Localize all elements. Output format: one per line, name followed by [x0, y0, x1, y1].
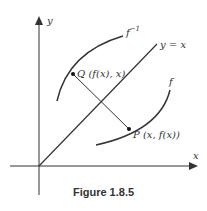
- identity-line-label: y = x: [159, 39, 186, 50]
- inverse-curve-label: f−1: [125, 25, 140, 38]
- function-curve-label: f: [168, 76, 175, 87]
- figure-caption: Figure 1.8.5: [0, 186, 207, 198]
- point-p-label: P (x, f(x)): [132, 129, 180, 140]
- point-q: [71, 72, 75, 76]
- inverse-function-diagram: y x y = x f−1 f Q (f(x), x) P (x, f(x)): [0, 0, 207, 211]
- x-axis-arrow-icon: [189, 162, 198, 170]
- x-axis-label: x: [193, 150, 199, 161]
- y-axis-label: y: [46, 15, 53, 26]
- point-p: [127, 127, 131, 131]
- identity-line: [39, 44, 157, 166]
- point-q-label: Q (f(x), x): [77, 68, 125, 79]
- inverse-curve-label-superscript: −1: [130, 25, 140, 33]
- y-axis-arrow-icon: [35, 16, 43, 25]
